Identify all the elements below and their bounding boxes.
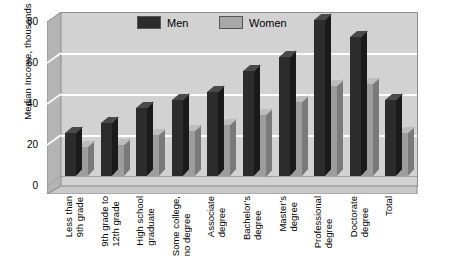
bar-side-face bbox=[159, 128, 165, 176]
legend-label-women: Women bbox=[249, 17, 287, 29]
bar-front bbox=[350, 37, 361, 176]
bar-side-face bbox=[266, 108, 272, 176]
bar-side-face bbox=[254, 65, 260, 176]
bar-front bbox=[136, 108, 147, 176]
bar-front bbox=[243, 71, 254, 176]
bar-men-6[interactable] bbox=[279, 57, 290, 176]
x-label-4: Associate degree bbox=[205, 196, 227, 237]
x-label-5: Bachelor's degree bbox=[241, 196, 263, 240]
bar-men-5[interactable] bbox=[243, 71, 254, 176]
legend-women: Women bbox=[219, 16, 287, 29]
x-label-6: Master's degree bbox=[277, 196, 299, 232]
bar-side-face bbox=[408, 126, 414, 176]
y-tick-80: 80 bbox=[16, 16, 38, 27]
bar-front bbox=[172, 100, 183, 176]
bar-side-face bbox=[147, 102, 153, 176]
x-label-2: High school graduate bbox=[134, 196, 156, 246]
x-label-8: Doctorate degree bbox=[348, 196, 370, 237]
x-label-3: Some college, no degree bbox=[170, 196, 192, 256]
legend-swatch-men bbox=[137, 16, 161, 29]
bar-front bbox=[314, 20, 325, 176]
bar-front bbox=[207, 92, 218, 176]
bar-side-face bbox=[183, 93, 189, 176]
bar-side-face bbox=[112, 116, 118, 176]
bar-front bbox=[385, 100, 396, 176]
y-tick-40: 40 bbox=[16, 98, 38, 109]
bar-front bbox=[65, 133, 76, 176]
bar-men-3[interactable] bbox=[172, 100, 183, 176]
x-label-1: 9th grade to 12th grade bbox=[99, 196, 121, 247]
y-tick-20: 20 bbox=[16, 139, 38, 150]
x-label-9: Total bbox=[383, 196, 394, 216]
bar-group-layer bbox=[47, 12, 425, 194]
bar-side-face bbox=[230, 118, 236, 176]
bar-front bbox=[101, 123, 112, 176]
bar-men-9[interactable] bbox=[385, 100, 396, 176]
bar-side-face bbox=[361, 30, 367, 176]
x-label-7: Professional degree bbox=[312, 196, 334, 248]
bar-men-2[interactable] bbox=[136, 108, 147, 176]
bar-side-face bbox=[76, 126, 82, 176]
bar-side-face bbox=[373, 77, 379, 176]
bar-side-face bbox=[195, 124, 201, 176]
bar-men-0[interactable] bbox=[65, 133, 76, 176]
y-tick-60: 60 bbox=[16, 57, 38, 68]
bar-side-face bbox=[302, 96, 308, 176]
bar-side-face bbox=[337, 79, 343, 176]
bar-side-face bbox=[218, 85, 224, 176]
bar-men-4[interactable] bbox=[207, 92, 218, 176]
bar-men-8[interactable] bbox=[350, 37, 361, 176]
bar-side-face bbox=[325, 14, 331, 176]
bar-side-face bbox=[290, 50, 296, 176]
chart-container: Median Income, thousands 80 60 40 20 0 bbox=[0, 0, 454, 277]
plot-area bbox=[47, 12, 425, 194]
bar-men-7[interactable] bbox=[314, 20, 325, 176]
bar-side-face bbox=[396, 93, 402, 176]
legend-label-men: Men bbox=[167, 17, 188, 29]
legend-men: Men bbox=[137, 16, 188, 29]
x-label-0: Less than 9th grade bbox=[63, 196, 85, 237]
legend-swatch-women bbox=[219, 16, 243, 29]
bar-men-1[interactable] bbox=[101, 123, 112, 176]
y-tick-0: 0 bbox=[16, 180, 38, 191]
bar-front bbox=[279, 57, 290, 176]
